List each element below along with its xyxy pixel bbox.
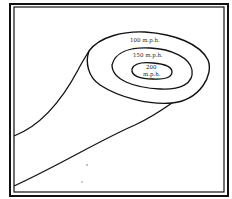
funnel-upper-edge <box>14 51 89 136</box>
label-100-mph: 100 m.p.h. <box>130 37 160 44</box>
tornado-wind-diagram: 100 m.p.h. 150 m.p.h. 200 m.p.h. <box>0 0 232 199</box>
speck <box>81 181 82 182</box>
speck <box>86 164 87 165</box>
outer-frame <box>10 4 228 196</box>
funnel-lower-edge <box>14 103 172 186</box>
label-200-mph-line2: m.p.h. <box>143 71 161 78</box>
label-200-mph-line1: 200 <box>146 64 157 70</box>
label-150-mph: 150 m.p.h. <box>133 52 163 59</box>
